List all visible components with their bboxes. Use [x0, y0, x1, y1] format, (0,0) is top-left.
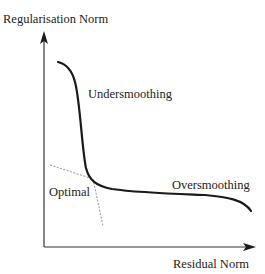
undersmoothing-label: Undersmoothing [88, 87, 173, 101]
optimal-label: Optimal [49, 185, 90, 199]
l-curve-diagram: Regularisation Norm Residual Norm Unders… [0, 0, 265, 274]
oversmoothing-label: Oversmoothing [172, 178, 251, 192]
y-axis-label: Regularisation Norm [3, 12, 108, 26]
x-axis-label: Residual Norm [173, 257, 249, 271]
